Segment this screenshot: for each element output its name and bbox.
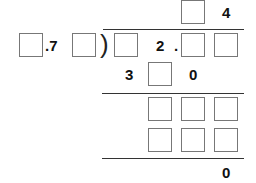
quotient-digit: 4 <box>222 4 230 22</box>
dividend-decimal-point: . <box>174 37 178 55</box>
step1-right-digit: 0 <box>189 66 197 84</box>
dividend-box-1[interactable] <box>114 33 138 57</box>
dividend-digit: 2 <box>156 37 164 55</box>
step1-box[interactable] <box>148 62 172 86</box>
divisor-box-1[interactable] <box>19 33 43 57</box>
step2-row1-box-2[interactable] <box>181 97 205 121</box>
subtraction-line-1 <box>102 93 244 94</box>
step2-row2-box-1[interactable] <box>148 128 172 152</box>
step2-row2-box-3[interactable] <box>214 128 238 152</box>
division-bar <box>103 29 244 30</box>
remainder-digit: 0 <box>222 164 230 182</box>
dividend-box-3[interactable] <box>214 33 238 57</box>
step2-row2-box-2[interactable] <box>181 128 205 152</box>
step2-row1-box-1[interactable] <box>148 97 172 121</box>
divisor-known-text: .7 <box>45 37 58 55</box>
quotient-box-1[interactable] <box>181 0 205 24</box>
subtraction-line-2 <box>102 158 244 159</box>
step2-row1-box-3[interactable] <box>214 97 238 121</box>
division-bracket: ) <box>100 30 109 58</box>
divisor-box-2[interactable] <box>72 33 96 57</box>
dividend-box-2[interactable] <box>181 33 205 57</box>
step1-left-digit: 3 <box>125 66 133 84</box>
